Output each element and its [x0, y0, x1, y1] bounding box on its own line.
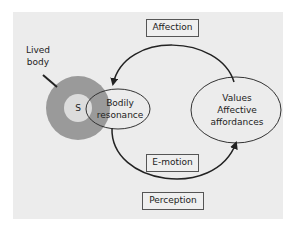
values-line2: Affective	[200, 104, 274, 116]
bodily-resonance-label: Bodily resonance	[94, 97, 146, 121]
emotion-box: E-motion	[146, 154, 199, 172]
lived-body-label: Lived body	[18, 44, 58, 68]
affection-arrow	[113, 45, 234, 84]
values-line3: affordances	[200, 116, 274, 128]
affection-box: Affection	[146, 19, 199, 37]
perception-box: Perception	[142, 192, 204, 210]
lived-body-line1: Lived	[18, 44, 58, 56]
lived-body-pointer	[43, 75, 57, 87]
self-label: S	[71, 102, 85, 114]
lived-body-line2: body	[18, 56, 58, 68]
values-label: Values Affective affordances	[200, 92, 274, 128]
bodily-resonance-line2: resonance	[94, 109, 146, 121]
values-line1: Values	[200, 92, 274, 104]
bodily-resonance-line1: Bodily	[94, 97, 146, 109]
